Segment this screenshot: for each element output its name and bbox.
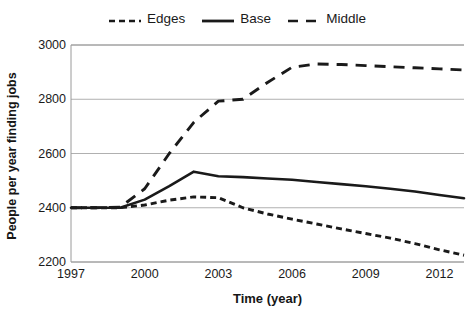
x-axis-tick-labels: 199720002003200620092012 [0, 268, 474, 286]
data-series-group [71, 64, 464, 255]
grid-lines [71, 45, 464, 262]
x-tick-label: 1997 [41, 268, 101, 281]
x-tick-label: 2009 [336, 268, 396, 281]
x-tick-label: 2000 [115, 268, 175, 281]
series-line-base [71, 172, 464, 208]
x-tick-label: 2006 [262, 268, 322, 281]
chart-figure: Edges Base Middle People per year findin… [0, 0, 474, 318]
x-tick-label: 2003 [188, 268, 248, 281]
x-axis-title: Time (year) [71, 291, 464, 306]
series-line-middle [71, 64, 464, 208]
x-tick-label: 2012 [409, 268, 469, 281]
